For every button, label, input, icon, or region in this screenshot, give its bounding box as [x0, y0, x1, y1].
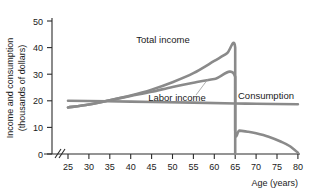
x-tick-label-80: 80	[293, 162, 303, 172]
x-tick-label-55: 55	[188, 162, 198, 172]
x-tick-label-25: 25	[63, 162, 73, 172]
x-tick-label-30: 30	[84, 162, 94, 172]
y-axis-label-line1: Income and consumption	[5, 38, 15, 139]
annotation-labor-income: Labor income	[148, 92, 206, 103]
chart-container: Income and consumption (thousands of dol…	[0, 0, 312, 196]
y-tick-label-50: 50	[33, 17, 43, 27]
y-tick-label-30: 30	[33, 70, 43, 80]
x-tick-label-60: 60	[209, 162, 219, 172]
x-tick-label-50: 50	[167, 162, 177, 172]
x-tick-label-70: 70	[251, 162, 261, 172]
y-tick-label-20: 20	[33, 96, 43, 106]
x-tick-label-75: 75	[272, 162, 282, 172]
x-tick-label-35: 35	[105, 162, 115, 172]
y-axis-label-line2: (thousands of dollars)	[17, 45, 27, 132]
x-tick-label-40: 40	[126, 162, 136, 172]
x-tick-label-45: 45	[147, 162, 157, 172]
annotation-total-income: Total income	[136, 34, 189, 45]
annotation-consumption: Consumption	[238, 90, 294, 101]
x-axis-label: Age (years)	[251, 178, 298, 188]
y-tick-label-10: 10	[33, 123, 43, 133]
y-tick-label-40: 40	[33, 43, 43, 53]
lifecycle-income-consumption-chart: Income and consumption (thousands of dol…	[0, 0, 312, 196]
y-tick-label-0: 0	[38, 150, 43, 160]
x-tick-label-65: 65	[230, 162, 240, 172]
